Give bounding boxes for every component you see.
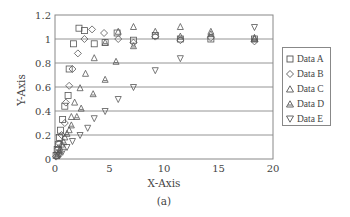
data-point: [65, 92, 71, 98]
data-point: [77, 133, 83, 139]
x-tick-label: 20: [267, 163, 280, 174]
data-point: [90, 91, 96, 97]
series-data-a: [53, 25, 257, 158]
series-data-e: [56, 25, 257, 159]
y-tick-label: 0.4: [35, 106, 51, 117]
legend: Data A Data B Data C Data D Data E: [282, 47, 331, 126]
legend-item-data-c: Data C: [286, 81, 330, 96]
legend-label: Data A: [297, 54, 324, 64]
x-tick-label: 5: [106, 163, 112, 174]
triangle-up-dot-marker-icon: [286, 100, 294, 108]
data-point: [152, 28, 158, 34]
data-point: [81, 36, 88, 43]
data-point: [130, 85, 136, 91]
data-point: [115, 97, 121, 103]
legend-label: Data E: [297, 114, 323, 124]
figure-caption: (a): [157, 195, 171, 207]
x-tick-labels: 05101520: [52, 163, 280, 174]
legend-item-data-a: Data A: [286, 51, 330, 66]
series-data-b: [53, 26, 258, 160]
x-axis-label: X-Axis: [148, 177, 181, 189]
data-point: [74, 114, 80, 120]
data-point: [78, 105, 84, 111]
legend-item-data-e: Data E: [286, 111, 330, 126]
legend-label: Data D: [297, 99, 324, 109]
data-point: [91, 116, 97, 122]
data-point: [68, 114, 74, 120]
data-point: [89, 26, 96, 33]
y-tick-label: 0.2: [35, 130, 51, 141]
data-point: [177, 24, 183, 30]
data-point: [91, 41, 97, 47]
y-tick-label: 0.8: [35, 58, 51, 69]
data-point: [69, 139, 75, 145]
data-point: [102, 76, 108, 82]
y-tick-label: 1: [45, 34, 51, 45]
data-point: [81, 28, 87, 34]
x-tick-label: 0: [52, 163, 58, 174]
data-point: [251, 25, 257, 31]
data-point: [77, 85, 83, 91]
legend-item-data-d: Data D: [286, 96, 330, 111]
square-marker-icon: [286, 55, 294, 63]
data-point: [85, 125, 91, 131]
data-point: [68, 122, 74, 128]
data-point: [66, 82, 73, 89]
data-point: [152, 68, 158, 74]
data-point: [115, 36, 122, 43]
data-point: [83, 70, 89, 76]
data-point: [74, 50, 81, 57]
data-point: [91, 55, 97, 61]
data-points: [53, 24, 258, 161]
data-point: [113, 58, 119, 64]
legend-item-data-b: Data B: [286, 66, 330, 81]
data-point: [72, 99, 78, 105]
data-point: [177, 56, 183, 62]
triangle-down-marker-icon: [286, 115, 294, 123]
x-tick-label: 15: [212, 163, 225, 174]
triangle-up-marker-icon: [286, 85, 294, 93]
data-point: [101, 30, 108, 37]
data-point: [130, 24, 136, 30]
series-data-d: [55, 31, 257, 157]
y-axis-label: Y-Axis: [15, 74, 27, 107]
y-tick-label: 0.6: [35, 82, 51, 93]
gridlines: [55, 39, 273, 135]
data-point: [71, 41, 77, 47]
data-point: [102, 109, 108, 115]
y-tick-labels: 00.20.40.60.811.2: [35, 10, 51, 165]
series-data-c: [54, 24, 257, 158]
legend-label: Data B: [297, 69, 324, 79]
y-tick-label: 1.2: [35, 10, 51, 21]
y-tick-label: 0: [45, 154, 51, 165]
diamond-marker-icon: [286, 70, 294, 78]
x-tick-label: 10: [158, 163, 171, 174]
legend-label: Data C: [297, 84, 324, 94]
